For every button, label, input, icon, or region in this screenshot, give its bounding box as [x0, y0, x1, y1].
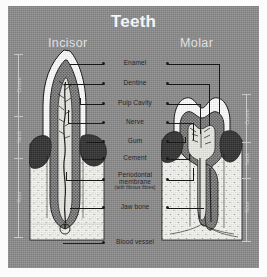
label-pulp-cavity: Pulp Cavity	[104, 99, 166, 106]
dot-jaw-right	[166, 206, 169, 209]
leader-dentine-right-v	[209, 84, 210, 126]
label-nerve: Nerve	[104, 118, 166, 125]
label-pulp-cavity-text: Pulp Cavity	[118, 99, 152, 106]
dot-nerve-left	[102, 121, 105, 124]
leader-perio-right	[168, 180, 194, 181]
leader-cement-right	[168, 159, 190, 160]
leader-gum-left	[86, 142, 103, 143]
region-label-neck-left: Neck	[16, 125, 22, 149]
page-title: Teeth	[8, 12, 259, 32]
dot-cement-left	[102, 157, 105, 160]
region-label-root-left: Root	[16, 185, 22, 209]
label-jaw-bone-text: Jaw bone	[121, 203, 150, 210]
leader-enamel-right	[168, 64, 220, 65]
leader-nerve-right	[168, 123, 194, 124]
leader-perio-left	[66, 180, 103, 181]
dot-enamel-left	[102, 62, 105, 65]
dot-nerve-right	[166, 121, 169, 124]
leader-enamel-right-v	[219, 64, 220, 114]
leader-nerve-right-v	[193, 123, 194, 140]
diagram-panel: Teeth Incisor Molar Crown Neck Root Crow…	[8, 6, 259, 268]
molar-illustration	[160, 92, 244, 244]
dot-gum-right	[166, 140, 169, 143]
label-dentine: Dentine	[104, 79, 166, 86]
dot-dentine-right	[166, 82, 169, 85]
label-cement: Cement	[104, 154, 166, 161]
leader-perio-right-v	[193, 168, 194, 181]
label-nerve-text: Nerve	[126, 118, 144, 125]
leader-pulp-left	[80, 104, 103, 105]
label-periodontal-membrane: Periodontal membrane (with fibrous fibre…	[104, 171, 166, 191]
leader-pulp-left-v	[80, 98, 81, 105]
label-blood-vessel: Blood vessel	[104, 238, 166, 245]
leader-dentine-right	[168, 84, 210, 85]
label-periodontal-membrane-text: Periodontal membrane	[118, 171, 152, 185]
label-periodontal-membrane-sub: (with fibrous fibres)	[104, 185, 166, 190]
label-enamel: Enamel	[104, 59, 166, 66]
dot-blood-left	[102, 241, 105, 244]
region-scale-left: Crown Neck Root	[12, 54, 26, 238]
dot-cement-right	[166, 157, 169, 160]
label-gum: Gum	[104, 137, 166, 144]
dot-jaw-left	[102, 206, 105, 209]
dot-pulp-left	[102, 102, 105, 105]
label-jaw-bone: Jaw bone	[104, 203, 166, 210]
region-label-root-right: Root	[244, 195, 250, 219]
label-enamel-text: Enamel	[124, 59, 147, 66]
leader-nerve-left	[68, 123, 103, 124]
leader-cement-left	[82, 159, 103, 160]
region-label-crown-right: Crown	[244, 105, 250, 129]
dot-dentine-left	[102, 82, 105, 85]
dot-gum-left	[102, 140, 105, 143]
diagram-frame: Teeth Incisor Molar Crown Neck Root Crow…	[0, 0, 267, 277]
region-scale-right: Crown Neck Root	[240, 94, 254, 242]
label-cement-text: Cement	[123, 154, 146, 161]
label-dentine-text: Dentine	[123, 79, 146, 86]
dot-enamel-right	[166, 62, 169, 65]
incisor-illustration	[24, 48, 110, 244]
dot-perio-right	[166, 178, 169, 181]
leader-pulp-right	[168, 104, 201, 105]
leader-gum-right	[168, 142, 186, 143]
region-label-crown-left: Crown	[16, 73, 22, 97]
leader-cement-right-v	[189, 154, 190, 160]
leader-jaw-left	[70, 208, 103, 209]
leader-pulp-right-v	[200, 104, 201, 134]
leader-nerve-left-v	[68, 110, 69, 124]
subheading-molar: Molar	[180, 36, 213, 50]
dot-perio-left	[102, 178, 105, 181]
region-label-neck-right: Neck	[244, 147, 250, 171]
leader-dentine-left	[64, 84, 103, 85]
leader-enamel-left	[70, 64, 103, 65]
dot-pulp-right	[166, 102, 169, 105]
leader-blood-left	[63, 243, 103, 244]
leader-perio-left-v	[66, 172, 67, 181]
leader-jaw-right	[168, 208, 204, 209]
label-gum-text: Gum	[128, 137, 142, 144]
subheading-incisor: Incisor	[48, 36, 88, 50]
label-blood-vessel-text: Blood vessel	[116, 238, 154, 245]
leader-gum-right-v	[185, 137, 186, 143]
